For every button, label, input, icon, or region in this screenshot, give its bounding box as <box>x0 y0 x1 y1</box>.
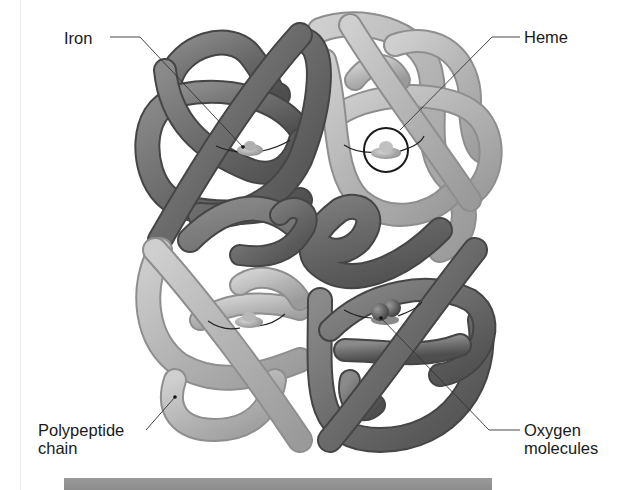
caption-bar <box>64 478 492 490</box>
label-iron: Iron <box>64 30 92 47</box>
label-heme: Heme <box>524 29 568 46</box>
label-oxygen-molecules: molecules <box>524 440 598 457</box>
hemoglobin-illustration <box>0 0 634 490</box>
label-oxygen: Oxygen <box>524 422 581 439</box>
label-polypeptide-chain: chain <box>38 440 77 457</box>
label-polypeptide: Polypeptide <box>38 422 124 439</box>
subunit-bottom-left <box>148 250 300 440</box>
